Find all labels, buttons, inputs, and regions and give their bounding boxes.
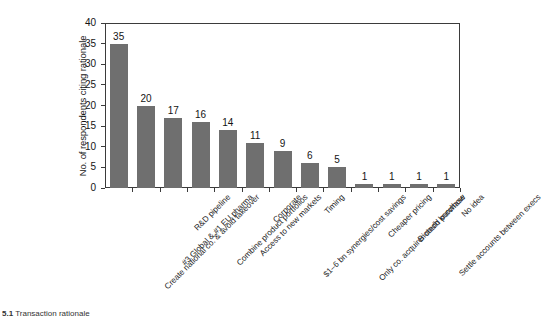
x-axis-tick-mark <box>405 188 406 192</box>
y-axis-tick-mark <box>101 126 105 127</box>
y-axis-tick: 20 <box>0 100 105 112</box>
bar <box>410 184 428 188</box>
x-axis-category-label: Timing <box>322 192 347 217</box>
bar <box>164 118 182 188</box>
y-axis-tick-label: 30 <box>85 58 96 70</box>
bar-value-label: 16 <box>186 109 216 120</box>
bar-value-label: 35 <box>104 31 134 42</box>
bar-value-label: 14 <box>213 117 243 128</box>
y-axis-tick: 0 <box>0 182 105 194</box>
bar <box>437 184 455 188</box>
y-axis-tick: 35 <box>0 38 105 50</box>
x-axis-tick-mark <box>160 188 161 192</box>
y-axis-tick-label: 40 <box>85 17 96 29</box>
y-axis-tick: 10 <box>0 141 105 153</box>
y-axis-tick: 15 <box>0 120 105 132</box>
bar-value-label: 1 <box>349 171 379 182</box>
bar-value-label: 9 <box>268 138 298 149</box>
y-axis-tick-mark <box>101 43 105 44</box>
y-axis-tick-label: 5 <box>90 161 96 173</box>
bar <box>274 151 292 188</box>
y-axis-tick-label: 15 <box>85 120 96 132</box>
bar <box>328 167 346 188</box>
y-axis-tick: 25 <box>0 79 105 91</box>
bar <box>110 44 128 188</box>
y-axis-tick-label: 10 <box>85 141 96 153</box>
x-axis-tick-mark <box>214 188 215 192</box>
y-axis-tick-label: 20 <box>85 100 96 112</box>
bar-value-label: 5 <box>322 154 352 165</box>
bar-value-label: 1 <box>404 171 434 182</box>
bar <box>192 122 210 188</box>
y-axis-tick-label: 35 <box>85 38 96 50</box>
x-axis-tick-mark <box>242 188 243 192</box>
y-axis-tick-mark <box>101 23 105 24</box>
bar <box>355 184 373 188</box>
bar <box>383 184 401 188</box>
y-axis-tick-mark <box>101 64 105 65</box>
x-axis-tick-mark <box>351 188 352 192</box>
caption-text: Transaction rationale <box>15 309 89 318</box>
figure-caption: 5.1 Transaction rationale <box>2 309 302 319</box>
bar <box>137 106 155 189</box>
y-axis-tick-label: 25 <box>85 79 96 91</box>
y-axis-tick-mark <box>101 146 105 147</box>
bar-value-label: 20 <box>131 93 161 104</box>
x-axis-tick-mark <box>269 188 270 192</box>
x-axis-category-text: Timing <box>322 192 347 217</box>
x-axis-tick-mark <box>187 188 188 192</box>
y-axis-tick-mark <box>101 167 105 168</box>
bar <box>246 143 264 188</box>
y-axis-tick: 30 <box>0 58 105 70</box>
bar-value-label: 1 <box>377 171 407 182</box>
x-axis-tick-mark <box>323 188 324 192</box>
bar-value-label: 17 <box>158 105 188 116</box>
bar-value-label: 6 <box>295 150 325 161</box>
bar <box>219 130 237 188</box>
y-axis-tick-label: 0 <box>90 182 96 194</box>
x-axis-tick-mark <box>132 188 133 192</box>
bar-value-label: 11 <box>240 130 270 141</box>
bar-value-label: 1 <box>431 171 461 182</box>
caption-number: 5.1 <box>2 309 13 318</box>
x-axis-tick-mark <box>378 188 379 192</box>
bar <box>301 163 319 188</box>
y-axis-tick: 5 <box>0 161 105 173</box>
y-axis-tick-mark <box>101 105 105 106</box>
x-axis-tick-mark <box>433 188 434 192</box>
y-axis-tick-mark <box>101 84 105 85</box>
y-axis-tick-mark <box>101 188 105 189</box>
y-axis-tick: 40 <box>0 17 105 29</box>
